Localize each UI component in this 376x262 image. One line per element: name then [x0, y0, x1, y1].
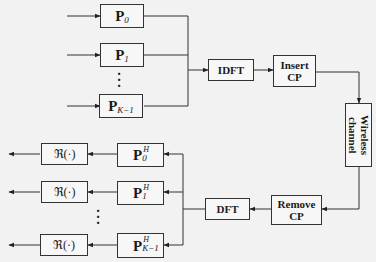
decoder-box-0: PH0 [117, 143, 164, 167]
precoder-label: P [115, 10, 124, 22]
decoder-subscript: 1 [142, 190, 147, 202]
dft-label: DFT [217, 203, 239, 215]
real-part-label: ℜ(·) [53, 239, 75, 251]
insert-cp-label-line1: Insert [280, 59, 308, 71]
precoder-subscript: 0 [124, 14, 129, 26]
remove-cp-block: Remove CP [271, 195, 322, 225]
precoder-box-1: P1 [100, 43, 144, 67]
decoder-subscript: K−1 [142, 242, 159, 254]
precoder-subscript: 1 [124, 53, 129, 65]
real-part-box-k-minus-1: ℜ(·) [40, 234, 88, 256]
channel-label-line2: channel [347, 117, 359, 154]
ellipsis-receiver: ··· [93, 209, 103, 227]
decoder-label: P [133, 149, 142, 161]
decoder-box-1: PH1 [117, 181, 164, 205]
precoder-box-0: P0 [100, 4, 144, 28]
precoder-label: P [115, 49, 124, 61]
channel-label-line1: Wireless [359, 115, 371, 155]
idft-block: IDFT [208, 59, 254, 81]
remove-cp-label-line1: Remove [278, 198, 316, 210]
wireless-channel-block: Wireless channel [345, 103, 372, 167]
precoder-box-k-minus-1: PK−1 [99, 94, 143, 118]
real-part-label: ℜ(·) [54, 186, 76, 198]
real-part-box-1: ℜ(·) [41, 181, 88, 203]
idft-label: IDFT [218, 64, 244, 76]
precoder-label: P [108, 100, 117, 112]
precoder-subscript: K−1 [117, 104, 134, 116]
decoder-label: P [133, 187, 142, 199]
insert-cp-label-line2: CP [287, 71, 302, 83]
decoder-box-k-minus-1: PHK−1 [117, 233, 164, 258]
ellipsis-transmitter: ··· [114, 72, 124, 90]
insert-cp-block: Insert CP [273, 55, 316, 87]
decoder-subscript: 0 [142, 152, 147, 164]
remove-cp-label-line2: CP [289, 210, 304, 222]
dft-block: DFT [205, 198, 250, 220]
real-part-box-0: ℜ(·) [41, 143, 88, 165]
real-part-label: ℜ(·) [54, 148, 76, 160]
decoder-label: P [133, 240, 142, 252]
